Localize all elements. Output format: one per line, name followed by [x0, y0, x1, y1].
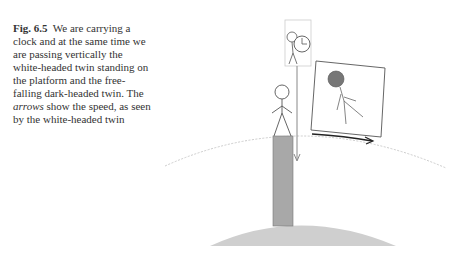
vertical-speed-arrow [294, 66, 300, 161]
clock-icon [294, 36, 310, 52]
orbit-arc [165, 136, 446, 168]
white-headed-twin [272, 85, 292, 136]
platform-pillar [273, 136, 293, 226]
planet-surface [210, 226, 396, 247]
dark-head [328, 71, 344, 87]
dark-headed-twin-box [311, 61, 385, 137]
observer-with-clock [285, 20, 311, 66]
figure-illustration [0, 0, 453, 253]
